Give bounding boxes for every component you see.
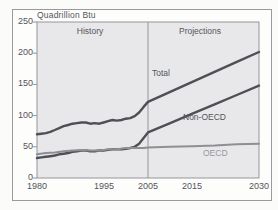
series-label-non-oecd: Non-OECD xyxy=(183,112,226,122)
y-tick-label-50: 50 xyxy=(8,142,33,151)
figure-frame xyxy=(12,9,272,201)
series-label-total: Total xyxy=(152,68,170,78)
x-tick-label-2015: 2015 xyxy=(175,182,209,191)
x-tick-label-2030: 2030 xyxy=(242,182,276,191)
x-tick-label-2005: 2005 xyxy=(131,182,165,191)
chart-title: Quadrillion Btu xyxy=(37,10,96,20)
y-tick-label-150: 150 xyxy=(8,79,33,88)
y-tick-label-250: 250 xyxy=(8,17,33,26)
y-tick-label-100: 100 xyxy=(8,111,33,120)
x-tick-label-1980: 1980 xyxy=(20,182,54,191)
history-region-label: History xyxy=(55,26,125,36)
projections-region-label: Projections xyxy=(165,26,235,36)
series-label-oecd: OECD xyxy=(203,148,228,158)
y-tick-label-200: 200 xyxy=(8,48,33,57)
x-tick-label-1995: 1995 xyxy=(87,182,121,191)
